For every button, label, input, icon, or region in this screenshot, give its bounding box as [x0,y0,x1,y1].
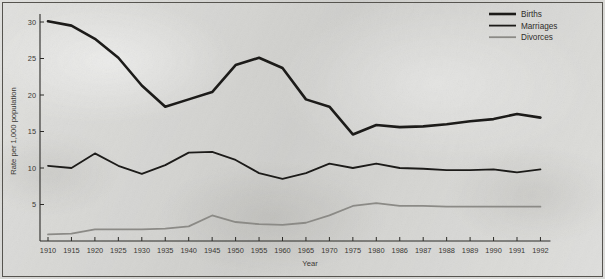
y-tick-label: 20 [28,91,36,100]
x-tick-label: 1975 [345,246,361,255]
x-tick-label: 1920 [87,246,103,255]
x-tick-label: 1989 [462,246,478,255]
chart-plot-area: 5101520253019101915192019251930193519401… [0,0,605,279]
y-tick-label: 10 [28,164,36,173]
x-tick-label: 1992 [532,246,548,255]
x-tick-label: 1986 [392,246,408,255]
series-line-marriages [48,152,540,179]
x-tick-label: 1925 [110,246,126,255]
x-tick-label: 1910 [40,246,56,255]
x-tick-label: 1950 [227,246,243,255]
x-tick-label: 1990 [485,246,501,255]
legend-label-births: Births [521,10,542,19]
x-tick-label: 1988 [438,246,454,255]
x-tick-label: 1965 [298,246,314,255]
x-tick-label: 1980 [368,246,384,255]
x-tick-label: 1991 [509,246,525,255]
y-tick-label: 15 [28,127,36,136]
series-line-divorces [48,203,540,234]
y-tick-label: 5 [32,200,36,209]
x-tick-label: 1945 [204,246,220,255]
x-tick-label: 1955 [251,246,267,255]
legend-label-marriages: Marriages [521,22,557,31]
y-axis-title: Rate per 1,000 population [9,87,18,174]
chart-figure: 5101520253019101915192019251930193519401… [0,0,605,279]
x-tick-label: 1960 [274,246,290,255]
x-tick-label: 1930 [134,246,150,255]
chart-legend: BirthsMarriagesDivorces [489,10,557,42]
x-tick-label: 1970 [321,246,337,255]
y-tick-label: 25 [28,54,36,63]
y-tick-label: 30 [28,18,36,27]
x-tick-label: 1935 [157,246,173,255]
legend-label-divorces: Divorces [521,33,553,42]
x-tick-label: 1940 [180,246,196,255]
series-line-births [48,21,540,134]
x-axis-title: Year [302,259,318,268]
x-tick-label: 1915 [63,246,79,255]
x-tick-label: 1987 [415,246,431,255]
